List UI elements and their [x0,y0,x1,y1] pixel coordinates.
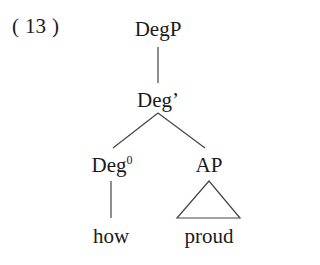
node-ap: AP [185,155,233,176]
node-degp: DegP [130,19,186,40]
node-ap-label: AP [196,153,223,177]
node-deg0-superscript: 0 [127,153,133,167]
branch-degbar-to-ap [158,113,205,148]
terminal-proud: proud [176,226,242,247]
node-deg-bar: Deg’ [130,90,186,111]
node-deg0-label: Deg [92,153,127,177]
terminal-how: how [86,226,136,247]
ap-triangle-icon [177,181,240,218]
node-deg-bar-label: Deg’ [137,88,179,112]
node-degp-label: DegP [135,17,182,41]
terminal-proud-label: proud [185,224,234,248]
terminal-how-label: how [93,224,129,248]
node-deg0: Deg0 [86,155,138,176]
branch-degbar-to-deg0 [113,113,158,148]
